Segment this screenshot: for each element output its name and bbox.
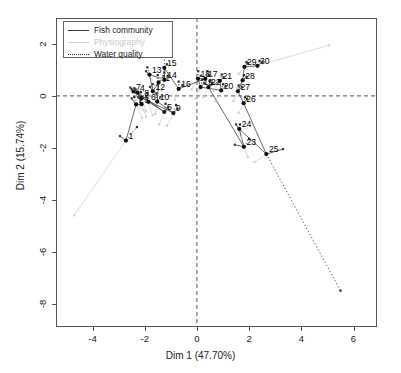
plot-canvas: 1234567891011121314151617181920212223242… (56, 18, 377, 327)
partial-point-marker (151, 83, 153, 85)
y-tick-label: -6 (37, 242, 48, 262)
point-label: 16 (181, 79, 191, 89)
point-label: 28 (245, 71, 255, 81)
partial-point-marker (136, 126, 138, 128)
partial-point-marker (236, 87, 238, 89)
y-tickmark (52, 304, 56, 305)
partial-point-marker (149, 86, 151, 88)
global-point-marker (146, 100, 150, 104)
partial-point-marker (154, 113, 156, 115)
global-point-marker (240, 78, 244, 82)
partial-point-marker (238, 84, 240, 86)
partial-point-marker (253, 161, 255, 163)
partial-point-marker (138, 106, 140, 108)
legend-key-physiography (68, 42, 89, 43)
legend-label-physiography: Physiography (94, 37, 145, 48)
point-label: 23 (247, 137, 257, 147)
partial-point-marker (174, 99, 176, 101)
y-tickmark (52, 252, 56, 253)
x-tickmark (301, 327, 302, 331)
partial-point-marker (73, 214, 75, 216)
global-point-marker (140, 102, 144, 106)
legend-item-fish-community: Fish community (68, 25, 168, 36)
partial-point-marker (339, 290, 341, 292)
point-label: 8 (144, 88, 149, 98)
global-point-marker (237, 127, 241, 131)
partial-point-marker (238, 112, 240, 114)
x-tickmark (197, 327, 198, 331)
global-point-marker (236, 89, 240, 93)
partial-point-marker (146, 66, 148, 68)
x-tickmark (249, 327, 250, 331)
y-tick-label: -8 (37, 294, 48, 314)
plot-legend: Fish community Physiography Water qualit… (63, 21, 173, 58)
partial-point-marker (202, 96, 204, 98)
global-point-marker (162, 66, 166, 70)
partial-point-marker (145, 116, 147, 118)
global-point-marker (242, 101, 246, 105)
point-label: 27 (241, 82, 251, 92)
partial-link-water-quality (266, 154, 340, 291)
global-point-marker (198, 85, 202, 89)
y-tickmark (52, 148, 56, 149)
partial-link-physiography (167, 113, 174, 126)
partial-point-marker (131, 97, 133, 99)
partial-point-marker (151, 114, 153, 116)
partial-link-physiography (254, 154, 266, 162)
point-label: 6 (151, 92, 156, 102)
legend-item-physiography: Physiography (68, 37, 168, 48)
partial-point-marker (166, 125, 168, 127)
partial-point-marker (133, 96, 135, 98)
partial-point-marker (239, 123, 241, 125)
partial-point-marker (235, 123, 237, 125)
partial-point-marker (232, 100, 234, 102)
global-point-marker (255, 64, 259, 68)
global-point-marker (196, 77, 200, 81)
x-tick-label: 2 (246, 333, 251, 344)
y-tick-label: 0 (37, 86, 48, 106)
point-label: 12 (155, 82, 165, 92)
plot-title (0, 0, 401, 9)
x-tick-label: 4 (299, 333, 304, 344)
y-tickmark (52, 96, 56, 97)
partial-point-marker (247, 156, 249, 158)
legend-key-water-quality (68, 54, 89, 55)
legend-key-fish-community (68, 30, 89, 31)
point-label: 10 (160, 92, 170, 102)
global-point-marker (242, 65, 246, 69)
point-label: 24 (242, 119, 252, 129)
y-axis-label: Dim 2 (15.74%) (15, 76, 26, 236)
global-point-marker (171, 111, 175, 115)
point-label: 22 (211, 77, 221, 87)
partial-point-marker (197, 70, 199, 72)
partial-point-marker (178, 81, 180, 83)
x-tick-label: 6 (351, 333, 356, 344)
point-label: 25 (269, 144, 279, 154)
x-tickmark (145, 327, 146, 331)
x-tickmark (354, 327, 355, 331)
partial-point-marker (142, 109, 144, 111)
point-label: 30 (260, 56, 270, 66)
partial-point-marker (214, 100, 216, 102)
x-tick-label: -2 (140, 333, 148, 344)
partial-point-marker (158, 123, 160, 125)
x-tickmark (93, 327, 94, 331)
global-point-marker (140, 96, 144, 100)
point-label: 9 (176, 103, 181, 113)
legend-item-water-quality: Water quality (68, 49, 168, 60)
point-label: 29 (247, 57, 257, 67)
partial-link-physiography (74, 141, 126, 216)
global-point-marker (219, 88, 223, 92)
x-axis-label: Dim 1 (47.70%) (0, 350, 401, 361)
global-point-marker (242, 145, 246, 149)
global-point-marker (264, 152, 268, 156)
global-point-marker (162, 110, 166, 114)
x-tick-label: 0 (194, 333, 199, 344)
legend-label-fish-community: Fish community (94, 25, 153, 36)
global-point-marker (155, 100, 159, 104)
point-label: 1 (129, 131, 134, 141)
y-tickmark (52, 44, 56, 45)
global-point-marker (177, 87, 181, 91)
y-tick-label: -4 (37, 190, 48, 210)
partial-point-marker (141, 117, 143, 119)
